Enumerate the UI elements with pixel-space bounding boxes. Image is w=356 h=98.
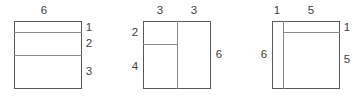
figure-3-right-upper-height-label: 1 <box>344 22 351 34</box>
figure-3-outline <box>272 21 340 89</box>
figure-3-left-height-label: 6 <box>261 49 268 61</box>
figure-3-top-right-width-label: 5 <box>308 5 315 17</box>
figure-3: 15615 <box>0 0 356 98</box>
figure-3-right-lower-height-label: 5 <box>344 54 351 66</box>
figure-3-divider-1 <box>283 21 284 89</box>
figure-3-divider-2 <box>283 32 340 33</box>
figure-3-top-left-width-label: 1 <box>274 5 281 17</box>
diagram-canvas: 61233324615615 <box>0 0 356 98</box>
